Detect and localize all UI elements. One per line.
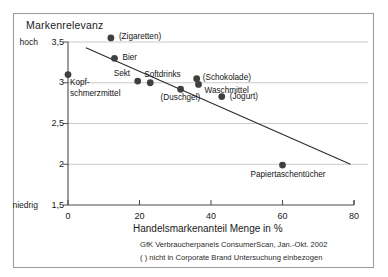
- point-label: (Zigaretten): [119, 33, 161, 41]
- trend-line: [86, 48, 351, 165]
- data-point-marker[interactable]: [279, 162, 286, 169]
- data-point-marker[interactable]: [134, 78, 141, 85]
- data-point-marker[interactable]: [147, 79, 154, 86]
- point-label: Bier: [122, 54, 137, 62]
- source-note-line-2: ( ) nicht in Corporate Brand Untersuchun…: [140, 254, 322, 262]
- y-axis-high-label: hoch: [16, 38, 38, 47]
- point-label: (Duschgel): [161, 94, 201, 102]
- data-point-marker[interactable]: [111, 55, 118, 62]
- x-tick-label: 80: [342, 212, 366, 221]
- y-tick-label: 3: [40, 78, 64, 87]
- point-label: Softdrinks: [144, 71, 180, 79]
- data-point-marker[interactable]: [65, 71, 72, 78]
- x-axis-ticks: [68, 200, 354, 205]
- x-axis-title: Handelsmarkenanteil Menge in %: [133, 224, 283, 234]
- data-point-marker[interactable]: [108, 35, 115, 42]
- source-note-line-1: GfK Verbraucherpanels ConsumerScan, Jan.…: [140, 241, 327, 249]
- point-label: (Jogurt): [230, 93, 258, 101]
- y-tick-label: 2: [40, 160, 64, 169]
- point-label: Kopf-: [70, 79, 90, 87]
- y-tick-label: 3,5: [40, 38, 64, 47]
- x-tick-label: 60: [271, 212, 295, 221]
- point-label: Papiertaschentücher: [251, 171, 326, 179]
- trend-line-segment: [86, 48, 351, 165]
- chart-title: Markenrelevanz: [26, 20, 104, 31]
- y-tick-label: 2,5: [40, 119, 64, 128]
- x-tick-label: 40: [199, 212, 223, 221]
- x-tick-label: 0: [56, 212, 80, 221]
- y-tick-label: 1,5: [40, 201, 64, 210]
- data-point-marker[interactable]: [177, 86, 184, 93]
- point-label: (Schokolade): [203, 74, 251, 82]
- data-point-marker[interactable]: [195, 81, 202, 88]
- y-axis-low-label: niedrig: [8, 201, 38, 210]
- x-tick-label: 20: [128, 212, 152, 221]
- point-label: Sekt: [114, 70, 130, 78]
- point-label: schmerzmittel: [70, 90, 121, 98]
